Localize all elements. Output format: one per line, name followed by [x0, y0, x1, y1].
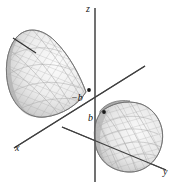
vertex-positive-b-marker	[102, 110, 106, 114]
hyperboloid-figure: −b b z x y	[0, 0, 174, 188]
y-axis-label: y	[162, 166, 168, 177]
x-axis-label: x	[14, 142, 20, 153]
z-axis-label: z	[85, 3, 90, 14]
label-negative-b: −b	[71, 92, 83, 103]
vertex-negative-b-marker	[87, 88, 91, 92]
label-positive-b: b	[88, 112, 93, 123]
figure-container: −b b z x y	[0, 0, 174, 188]
